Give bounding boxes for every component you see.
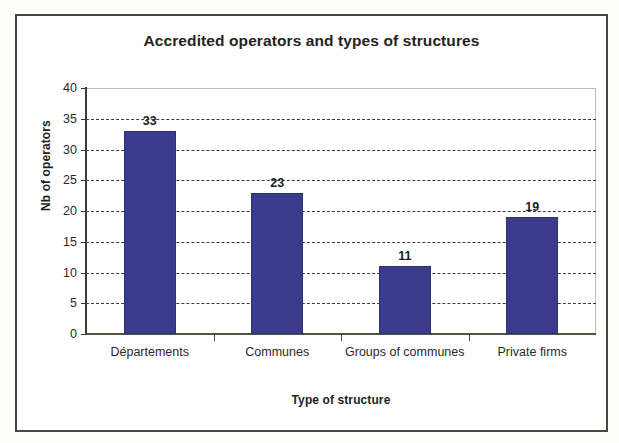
chart-title: Accredited operators and types of struct… bbox=[17, 32, 606, 50]
y-axis-tick bbox=[81, 88, 87, 89]
chart-screenshot: Accredited operators and types of struct… bbox=[0, 0, 619, 443]
y-axis-tick bbox=[81, 303, 87, 304]
y-axis-tick bbox=[81, 180, 87, 181]
y-tick-label: 35 bbox=[63, 112, 77, 126]
y-axis-tick bbox=[81, 211, 87, 212]
bar-value-label: 19 bbox=[525, 200, 539, 214]
y-axis-tick bbox=[81, 119, 87, 120]
y-tick-label: 30 bbox=[63, 143, 77, 157]
y-axis-title: Nb of operators bbox=[39, 120, 53, 211]
x-axis-tick bbox=[469, 334, 470, 341]
y-tick-label: 0 bbox=[70, 327, 77, 341]
y-axis-tick bbox=[81, 150, 87, 151]
x-tick-label: Départements bbox=[90, 345, 210, 360]
bar[interactable]: 33 bbox=[124, 131, 176, 334]
bar-value-label: 11 bbox=[398, 249, 411, 263]
y-tick-label: 10 bbox=[63, 266, 77, 280]
bar-value-label: 23 bbox=[270, 176, 284, 190]
x-axis-title: Type of structure bbox=[86, 393, 596, 407]
x-axis-tick bbox=[214, 334, 215, 341]
y-axis-tick bbox=[81, 242, 87, 243]
x-axis-tick bbox=[341, 334, 342, 341]
y-tick-label: 40 bbox=[63, 81, 77, 95]
bar-value-label: 33 bbox=[143, 114, 157, 128]
y-axis-tick bbox=[81, 273, 87, 274]
gridline bbox=[86, 119, 596, 120]
y-tick-label: 15 bbox=[63, 235, 77, 249]
y-tick-label: 5 bbox=[70, 296, 77, 310]
bar[interactable]: 11 bbox=[379, 266, 431, 334]
y-tick-label: 25 bbox=[63, 173, 77, 187]
x-tick-label: Groups of communes bbox=[345, 345, 465, 360]
bar[interactable]: 23 bbox=[251, 193, 303, 334]
bar[interactable]: 19 bbox=[506, 217, 558, 334]
y-tick-label: 20 bbox=[63, 204, 77, 218]
plot-area: 0510152025303540 33231119 DépartementsCo… bbox=[86, 88, 596, 334]
x-tick-label: Communes bbox=[217, 345, 337, 360]
y-axis-tick bbox=[81, 334, 87, 335]
chart-frame: Accredited operators and types of struct… bbox=[15, 14, 608, 432]
x-tick-label: Private firms bbox=[472, 345, 592, 360]
